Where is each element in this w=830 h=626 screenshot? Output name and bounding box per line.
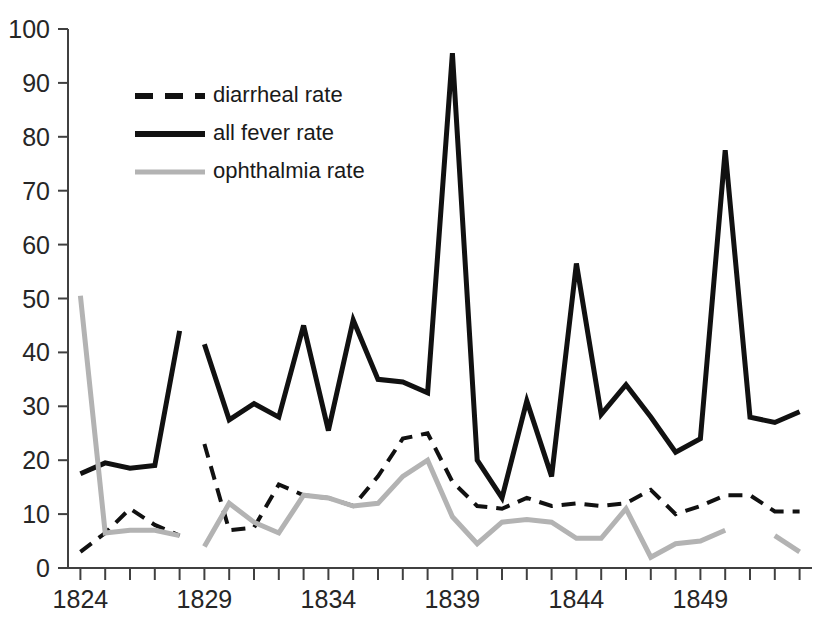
y-tick-label: 40 <box>22 338 50 366</box>
x-tick-label: 1839 <box>425 585 481 613</box>
x-tick-label: 1824 <box>53 585 109 613</box>
y-tick-label: 100 <box>8 15 50 43</box>
x-tick-label: 1849 <box>673 585 729 613</box>
y-tick-label: 60 <box>22 231 50 259</box>
line-chart: 0102030405060708090100 18241829183418391… <box>0 0 830 626</box>
y-tick-label: 70 <box>22 177 50 205</box>
legend-label-all-fever-rate: all fever rate <box>213 120 334 145</box>
y-tick-label: 20 <box>22 446 50 474</box>
x-tick-label: 1844 <box>549 585 605 613</box>
x-tick-label: 1829 <box>177 585 233 613</box>
y-tick-label: 30 <box>22 392 50 420</box>
chart-container: 0102030405060708090100 18241829183418391… <box>0 0 830 626</box>
y-tick-label: 80 <box>22 123 50 151</box>
legend-label-diarrheal-rate: diarrheal rate <box>213 82 343 107</box>
y-tick-label: 50 <box>22 285 50 313</box>
x-tick-label: 1834 <box>301 585 357 613</box>
y-tick-label: 0 <box>36 554 50 582</box>
y-tick-label: 90 <box>22 69 50 97</box>
legend-label-ophthalmia-rate: ophthalmia rate <box>213 158 365 183</box>
y-tick-label: 10 <box>22 500 50 528</box>
